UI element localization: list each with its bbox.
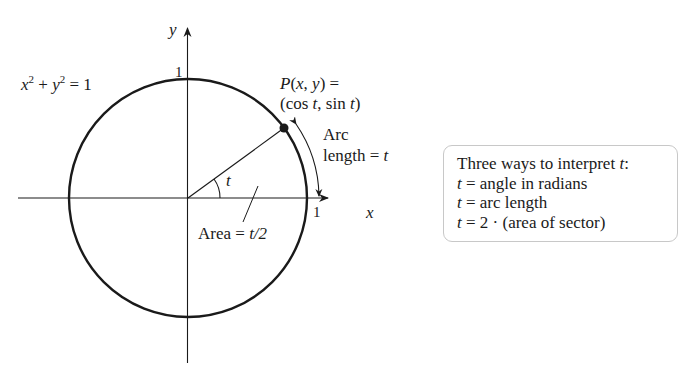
arc-t: t [384, 146, 389, 165]
point-p-label: P(x, y) = [280, 74, 339, 93]
p-y: y [312, 74, 320, 93]
param-close: ) [355, 94, 361, 113]
arc-label-line2: length = t [323, 146, 388, 165]
box-item: t = angle in radians [457, 174, 677, 194]
arc-label-line1: Arc [323, 125, 348, 144]
x-tick-label: 1 [313, 203, 321, 222]
radius-line [188, 128, 284, 198]
p-sep: , [304, 74, 313, 93]
angle-label: t [226, 171, 231, 190]
point-p-param: (cos t, sin t) [280, 94, 360, 113]
box-title-suffix: : [624, 154, 629, 173]
p-close: ) = [320, 74, 340, 93]
angle-arc [214, 179, 220, 198]
area-text: Area = [198, 224, 249, 243]
box-item: t = arc length [457, 193, 677, 213]
interpretation-box: Three ways to interpret t: t = angle in … [443, 145, 678, 242]
p-x: x [296, 74, 304, 93]
param-mid: , sin [317, 94, 350, 113]
box-item: t = 2 · (area of sector) [457, 213, 677, 233]
area-label: Area = t/2 [198, 224, 267, 243]
box-title: Three ways to interpret t: [457, 154, 677, 174]
x-axis-label: x [366, 203, 374, 222]
p-name: P [280, 74, 290, 93]
param-open: (cos [280, 94, 313, 113]
circle-equation: x2 + y2 = 1 [21, 75, 92, 94]
eq-rhs: = 1 [65, 75, 92, 94]
eq-y: y [52, 75, 60, 94]
point-p [280, 124, 289, 133]
y-axis-label: y [169, 20, 177, 39]
box-title-text: Three ways to interpret [457, 154, 619, 173]
area-pointer-line [243, 186, 258, 222]
area-value: t/2 [249, 224, 267, 243]
box-item-text: = arc length [462, 193, 548, 212]
box-item-text: = angle in radians [462, 174, 588, 193]
eq-plus: + [34, 75, 52, 94]
y-tick-label: 1 [175, 63, 183, 82]
eq-x: x [21, 75, 29, 94]
box-item-text: = 2 · (area of sector) [462, 213, 606, 232]
arc-text: length = [323, 146, 384, 165]
